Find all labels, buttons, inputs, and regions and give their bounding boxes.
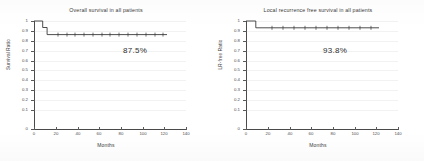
y-tick-label-left-1: 0.9 bbox=[0, 29, 28, 33]
y-tick-label-right-3: 0.7 bbox=[212, 49, 240, 53]
x-tick-label-right-7: 140 bbox=[390, 132, 406, 136]
x-axis-title-right: Months bbox=[212, 142, 424, 148]
x-tick-label-left-3: 60 bbox=[91, 132, 107, 136]
y-tick-label-right-0: 1 bbox=[212, 19, 240, 23]
y-tick-label-left-8: 0.2 bbox=[0, 98, 28, 102]
y-tick-label-right-4: 0.6 bbox=[212, 59, 240, 63]
chart-title-right: Local recurrence free survival in all pa… bbox=[212, 7, 424, 13]
x-axis-title-left: Months bbox=[0, 142, 212, 148]
y-tick-label-left-6: 0.4 bbox=[0, 78, 28, 82]
y-tick-label-right-1: 0.9 bbox=[212, 29, 240, 33]
y-axis-title-left: Survival Ratio bbox=[6, 25, 11, 85]
survival-curve-right bbox=[246, 21, 399, 130]
panel-overall-survival: Overall survival in all patients 1 0.9 0… bbox=[0, 0, 212, 161]
y-tick-label-left-5: 0.5 bbox=[0, 68, 28, 72]
y-tick-label-left-2: 0.8 bbox=[0, 39, 28, 43]
x-tick-label-right-2: 40 bbox=[282, 132, 298, 136]
x-tick-label-left-4: 80 bbox=[113, 132, 129, 136]
x-tick-label-right-5: 100 bbox=[347, 132, 363, 136]
y-tick-label-right-10: 0 bbox=[212, 127, 240, 131]
survival-rate-annotation-right: 93.8% bbox=[323, 46, 347, 55]
x-tick-label-right-4: 80 bbox=[325, 132, 341, 136]
x-tick-label-left-5: 100 bbox=[135, 132, 151, 136]
y-tick-label-right-5: 0.5 bbox=[212, 68, 240, 72]
y-tick-label-left-9: 0.1 bbox=[0, 108, 28, 112]
x-tick-label-left-2: 40 bbox=[70, 132, 86, 136]
chart-title-left: Overall survival in all patients bbox=[0, 7, 212, 13]
x-tick-label-left-0: 0 bbox=[26, 132, 42, 136]
y-tick-label-right-7: 0.3 bbox=[212, 88, 240, 92]
y-tick-label-right-8: 0.2 bbox=[212, 98, 240, 102]
x-tick-label-right-0: 0 bbox=[238, 132, 254, 136]
kaplan-meier-figure: Overall survival in all patients 1 0.9 0… bbox=[0, 0, 424, 161]
y-tick-label-left-3: 0.7 bbox=[0, 49, 28, 53]
y-axis-title-right: LR-free Ratio bbox=[218, 25, 223, 85]
survival-curve-left bbox=[34, 21, 187, 130]
y-tick-label-left-4: 0.6 bbox=[0, 59, 28, 63]
y-tick-label-left-7: 0.3 bbox=[0, 88, 28, 92]
y-tick-label-right-9: 0.1 bbox=[212, 108, 240, 112]
y-tick-label-left-0: 1 bbox=[0, 19, 28, 23]
x-tick-label-left-1: 20 bbox=[48, 132, 64, 136]
y-tick-label-right-6: 0.4 bbox=[212, 78, 240, 82]
y-tick-label-left-10: 0 bbox=[0, 127, 28, 131]
x-tick-label-left-6: 120 bbox=[156, 132, 172, 136]
x-tick-label-right-1: 20 bbox=[260, 132, 276, 136]
y-tick-label-right-2: 0.8 bbox=[212, 39, 240, 43]
survival-rate-annotation-left: 87.5% bbox=[123, 46, 147, 55]
x-tick-label-right-6: 120 bbox=[368, 132, 384, 136]
x-tick-label-left-7: 140 bbox=[178, 132, 194, 136]
panel-local-recurrence-free-survival: Local recurrence free survival in all pa… bbox=[212, 0, 424, 161]
x-tick-label-right-3: 60 bbox=[303, 132, 319, 136]
